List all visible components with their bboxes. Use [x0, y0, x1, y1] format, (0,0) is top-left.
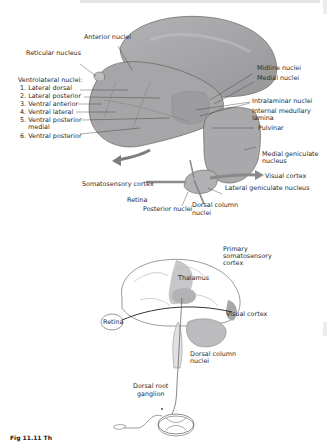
- label-anterior-nuclei: Anterior nuclei: [84, 34, 131, 41]
- label-lateral-dorsal: 1. Lateral dorsal: [20, 85, 72, 92]
- label-medial-nuclei: Medial nuclei: [257, 75, 299, 82]
- label-reticular-nucleus: Reticular nucleus: [26, 50, 81, 57]
- somatosensory-arrow: [118, 150, 150, 160]
- label-visual-cortex-top: Visual cortex: [265, 173, 306, 180]
- label-thalamus: Thalamus: [178, 275, 209, 282]
- label-dorsal-column-bottom-cont: nuclei: [190, 358, 209, 365]
- label-dorsal-root: Dorsal root: [133, 383, 168, 390]
- label-ventral-lateral: 4. Ventral lateral: [20, 109, 73, 116]
- label-ventral-posterior-medial-cont: medial: [28, 124, 50, 131]
- finger-icon: [114, 425, 126, 430]
- spinal-cord-section: [158, 414, 194, 434]
- label-ventral-anterior: 3. Ventral anterior: [20, 101, 78, 108]
- cerebellum: [186, 319, 226, 347]
- label-lateral-geniculate: Lateral geniculate nucleus: [225, 185, 310, 192]
- label-intralaminar-nuclei: Intralaminar nuclei: [252, 98, 312, 105]
- label-dorsal-column-top: Dorsal column: [192, 202, 238, 209]
- label-medial-geniculate-cont: nucleus: [262, 158, 287, 165]
- label-internal-medullary-lamina-cont: lamina: [252, 115, 274, 122]
- brainstem: [173, 322, 182, 368]
- label-lateral-posterior: 2. Lateral posterior: [20, 93, 81, 100]
- thalamus-shape: [172, 288, 196, 304]
- label-somatosensory-cortex: Somatosensory cortex: [82, 181, 154, 188]
- label-retina-bottom: Retina: [103, 319, 123, 326]
- label-primary-somatosensory-cont2: cortex: [223, 260, 243, 267]
- label-posterior-nuclei: Posterior nuclei: [143, 206, 192, 213]
- peripheral-nerve: [124, 415, 162, 428]
- label-ventrolateral-heading: Ventrolateral nuclei:: [18, 77, 83, 84]
- label-ventral-posterior: 6. Ventral posterior: [20, 133, 82, 140]
- label-visual-cortex-bottom: Visual cortex: [226, 311, 267, 318]
- label-dorsal-root-cont: ganglion: [137, 391, 165, 398]
- figure-caption: Fig 11.11 Th: [10, 434, 52, 441]
- label-midline-nuclei: Midline nuclei: [257, 65, 301, 72]
- label-retina-top: Retina: [127, 197, 147, 204]
- label-dorsal-column-top-cont: nuclei: [192, 210, 211, 217]
- label-pulvinar: Pulvinar: [258, 125, 284, 132]
